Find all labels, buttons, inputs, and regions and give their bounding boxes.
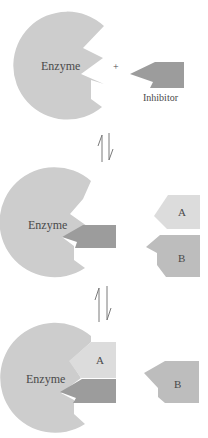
equilibrium-arrow-2 [95, 286, 111, 322]
bound-a-label: A [96, 354, 104, 366]
plus-sign: + [113, 61, 119, 72]
substrate-b-label-3: B [174, 378, 181, 390]
substrate-a-label: A [178, 206, 186, 218]
substrate-b-shape-3 [144, 361, 199, 403]
equilibrium-arrow-1 [98, 133, 113, 162]
stage-3: A Enzyme B [0, 323, 199, 433]
enzyme-label-1: Enzyme [41, 59, 80, 73]
enzyme-inhibition-diagram: Enzyme + Inhibitor Enzyme A B A Enzyme [0, 0, 208, 438]
substrate-b-label: B [178, 252, 185, 264]
substrate-a-shape [154, 195, 200, 229]
stage-1: Enzyme + Inhibitor [13, 12, 184, 120]
arrow-down-head [109, 149, 113, 160]
arrow-down-head [107, 308, 111, 320]
inhibitor-label: Inhibitor [143, 92, 179, 103]
inhibitor-shape [130, 62, 184, 88]
stage-2: Enzyme A B [0, 167, 200, 277]
substrate-b-shape [146, 235, 200, 277]
enzyme-label-3: Enzyme [26, 372, 65, 386]
enzyme-label-2: Enzyme [28, 218, 67, 232]
arrow-up-head [95, 288, 99, 300]
arrow-up-head [98, 135, 102, 146]
